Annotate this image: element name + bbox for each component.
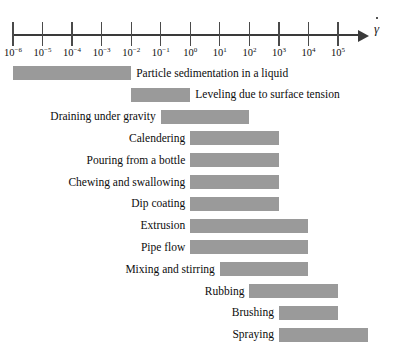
log-axis: γ 10−610−510−410−310−210−110010110210310… <box>0 0 412 62</box>
axis-tick-label: 10−2 <box>122 47 140 58</box>
axis-tick <box>71 22 72 46</box>
range-bar <box>279 306 338 320</box>
axis-tick-label: 10−4 <box>63 47 81 58</box>
axis-tick-label: 103 <box>272 47 286 58</box>
axis-tick <box>308 22 309 46</box>
axis-symbol-glyph: γ <box>374 21 379 36</box>
bar-row: Chewing and swallowing <box>0 175 412 189</box>
bar-label: Calendering <box>129 131 185 146</box>
bar-label: Dip coating <box>131 196 185 211</box>
bar-label: Pipe flow <box>141 240 185 255</box>
range-bar <box>190 131 279 145</box>
range-bar <box>190 197 279 211</box>
axis-tick <box>190 22 191 46</box>
bar-label: Particle sedimentation in a liquid <box>136 66 288 81</box>
axis-tick-label: 100 <box>183 47 197 58</box>
axis-tick-label: 10−6 <box>4 47 22 58</box>
bar-label: Rubbing <box>205 284 245 299</box>
axis-tick <box>101 22 102 46</box>
axis-tick-label: 102 <box>242 47 256 58</box>
bar-label: Pouring from a bottle <box>87 153 186 168</box>
range-bar <box>190 219 308 233</box>
shear-rate-chart: γ 10−610−510−410−310−210−110010110210310… <box>0 0 412 351</box>
bar-row: Brushing <box>0 306 412 320</box>
axis-tick <box>131 22 132 46</box>
range-bar <box>131 88 190 102</box>
axis-tick-label: 10−1 <box>152 47 170 58</box>
axis-tick <box>42 22 43 46</box>
range-bar <box>279 328 368 342</box>
bar-row: Extrusion <box>0 219 412 233</box>
range-bar <box>161 110 250 124</box>
bar-label: Spraying <box>232 327 274 342</box>
bar-row: Particle sedimentation in a liquid <box>0 66 412 80</box>
axis-tick-label: 101 <box>213 47 227 58</box>
bar-row: Rubbing <box>0 284 412 298</box>
bar-label: Extrusion <box>141 218 186 233</box>
bar-label: Draining under gravity <box>50 109 155 124</box>
bar-label: Chewing and swallowing <box>68 175 185 190</box>
bar-row: Draining under gravity <box>0 110 412 124</box>
bar-row: Mixing and stirring <box>0 262 412 276</box>
bar-row: Dip coating <box>0 197 412 211</box>
bar-row: Pouring from a bottle <box>0 153 412 167</box>
bar-label: Brushing <box>232 305 274 320</box>
range-bar <box>220 262 309 276</box>
range-bar <box>190 153 279 167</box>
axis-tick <box>160 22 161 46</box>
bar-label: Leveling due to surface tension <box>195 87 339 102</box>
axis-tick-label: 105 <box>331 47 345 58</box>
range-bar <box>190 240 308 254</box>
bar-row: Spraying <box>0 328 412 342</box>
axis-tick <box>337 22 338 46</box>
range-bar <box>249 284 338 298</box>
axis-tick <box>12 22 13 46</box>
axis-tick-label: 10−5 <box>34 47 52 58</box>
bar-row: Calendering <box>0 131 412 145</box>
axis-tick <box>278 22 279 46</box>
range-bar <box>190 175 279 189</box>
axis-tick <box>219 22 220 46</box>
axis-tick <box>249 22 250 46</box>
axis-tick-label: 10−3 <box>93 47 111 58</box>
bar-row: Leveling due to surface tension <box>0 88 412 102</box>
axis-arrow-icon <box>358 30 369 42</box>
bar-row: Pipe flow <box>0 240 412 254</box>
axis-tick-label: 104 <box>302 47 316 58</box>
range-bar <box>13 66 131 80</box>
bar-label: Mixing and stirring <box>125 262 214 277</box>
axis-symbol-gamma-dot: γ <box>374 22 379 35</box>
